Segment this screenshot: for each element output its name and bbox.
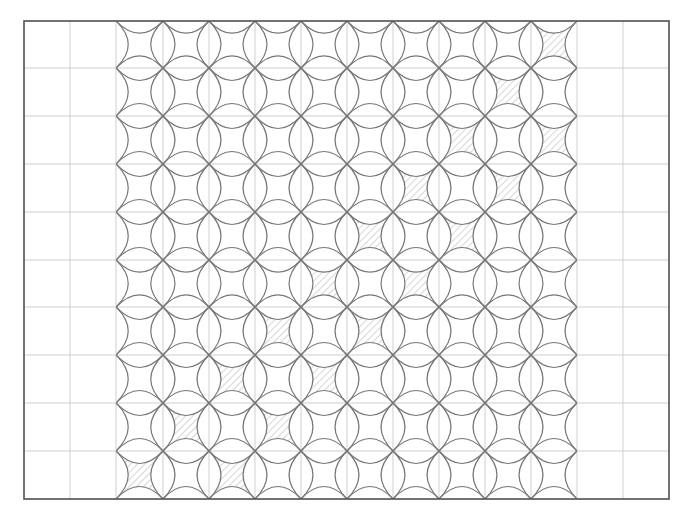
lens-arc — [439, 56, 485, 68]
lens-arc — [381, 21, 393, 68]
hatched-cell — [439, 116, 485, 164]
lens-arc — [347, 487, 393, 499]
lens-arc — [439, 451, 451, 499]
lens-arc — [393, 104, 439, 116]
lens-arc — [531, 451, 577, 463]
lens-arc — [243, 451, 255, 499]
lens-arc — [301, 248, 347, 260]
lens-arc — [565, 68, 577, 116]
lens-arc — [243, 355, 255, 403]
lens-arc — [151, 116, 163, 164]
lens-arc — [381, 403, 393, 451]
lens-arc — [485, 116, 497, 164]
lens-arc — [163, 116, 209, 128]
lens-arc — [347, 403, 393, 415]
lens-arc — [485, 355, 497, 403]
lens-arc — [439, 307, 485, 319]
lens-arc — [163, 116, 175, 164]
lens-arc — [209, 164, 221, 212]
lens-arc — [473, 451, 485, 499]
lens-arc — [151, 164, 163, 212]
lens-arc — [209, 391, 255, 403]
lens-arc — [427, 260, 439, 307]
lens-arc — [485, 152, 531, 164]
lens-arc — [163, 9, 209, 21]
lens-arc — [393, 451, 439, 463]
lens-arc — [519, 21, 531, 68]
lens-arc — [439, 212, 485, 224]
lens-arc — [163, 499, 209, 511]
lens-arc — [347, 68, 393, 80]
lens-arc — [209, 68, 255, 80]
lens-arc — [209, 343, 255, 355]
lens-arc — [531, 116, 543, 164]
hatched-cell — [347, 212, 393, 260]
lens-arc — [577, 451, 589, 499]
lens-arc — [485, 104, 531, 116]
hatched-cell — [485, 68, 531, 116]
lens-arc — [243, 212, 255, 260]
lens-arc — [565, 164, 577, 212]
lens-arc — [381, 164, 393, 212]
lens-arc — [531, 487, 577, 499]
lens-arc — [335, 164, 347, 212]
lens-arc — [116, 9, 163, 21]
lens-arc — [255, 439, 301, 451]
lens-arc — [163, 307, 175, 355]
hatched-cell — [531, 21, 577, 68]
lens-arc — [531, 439, 577, 451]
lens-arc — [289, 164, 301, 212]
lens-arc — [255, 164, 267, 212]
lens-arc — [209, 355, 221, 403]
lens-arc — [439, 391, 485, 403]
lens-arc — [393, 355, 439, 367]
lens-arc — [104, 260, 116, 307]
lens-arc — [439, 439, 485, 451]
lens-arc — [116, 248, 163, 260]
lens-arc — [289, 451, 301, 499]
lens-arc — [116, 260, 128, 307]
hatched-cell — [255, 403, 301, 451]
lens-arc — [439, 68, 451, 116]
lens-arc — [151, 451, 163, 499]
lens-arc — [255, 307, 267, 355]
lens-arc — [577, 68, 589, 116]
lens-arc — [393, 260, 439, 272]
lens-arc — [116, 56, 163, 68]
lens-arc — [427, 164, 439, 212]
lens-arc — [531, 343, 577, 355]
lens-arc — [116, 116, 163, 128]
lens-arc — [301, 260, 347, 272]
lens-arc — [255, 9, 301, 21]
lens-arc — [347, 21, 359, 68]
lens-arc — [427, 451, 439, 499]
lens-arc — [519, 116, 531, 164]
lens-arc — [163, 68, 209, 80]
hatched-cell — [439, 212, 485, 260]
lens-arc — [531, 295, 577, 307]
lens-arc — [347, 200, 393, 212]
lens-arc — [163, 439, 209, 451]
lens-arc — [519, 260, 531, 307]
lens-arc — [209, 260, 255, 272]
lens-arc — [301, 68, 313, 116]
lens-arc — [255, 56, 301, 68]
lens-arc — [163, 152, 209, 164]
lens-arc — [519, 164, 531, 212]
lens-arc — [301, 9, 347, 21]
hatched-cell — [531, 116, 577, 164]
lens-arc — [301, 403, 313, 451]
lens-arc — [116, 307, 128, 355]
lens-arc — [301, 260, 313, 307]
lens-arc — [439, 152, 485, 164]
lens-arc — [163, 343, 209, 355]
lens-arc — [197, 307, 209, 355]
lens-arc — [301, 439, 347, 451]
lens-arc — [163, 355, 209, 367]
lens-arc — [255, 152, 301, 164]
hatched-cell — [485, 164, 531, 212]
lens-arc — [163, 21, 209, 33]
lens-arc — [577, 403, 589, 451]
lens-arc — [393, 164, 439, 176]
lens-arc — [519, 307, 531, 355]
